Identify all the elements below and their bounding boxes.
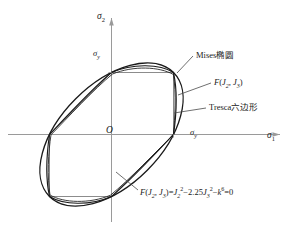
tick-marks-group [109,73,174,138]
x-axis-label: σ1 [267,131,275,142]
leader-line-mises [177,56,193,73]
annotation-tresca-hexagon: Tresca六边形 [209,103,258,112]
y-axis-tick-label-sigma-y: σy [93,49,100,60]
annotation-fj2j3: F(J2, J3) [214,78,243,89]
leader-lines-group [116,56,211,190]
leader-line-tresca [174,108,206,113]
equation-label: F(J2, J3)=J22−2.25J32−k6=0 [140,186,233,199]
y-axis-label: σ2 [97,12,105,23]
annotation-mises-ellipse: Mises椭圆 [196,51,234,60]
yield-criteria-figure: σ2 σ1 σy σy O Mises椭圆 F(J2, J3) Tresca六边… [0,0,289,232]
x-axis-tick-label-sigma-y: σy [190,128,197,139]
y-axis-arrowhead [109,18,114,26]
origin-label: O [106,126,113,136]
leader-line-fj2j3 [178,83,211,95]
